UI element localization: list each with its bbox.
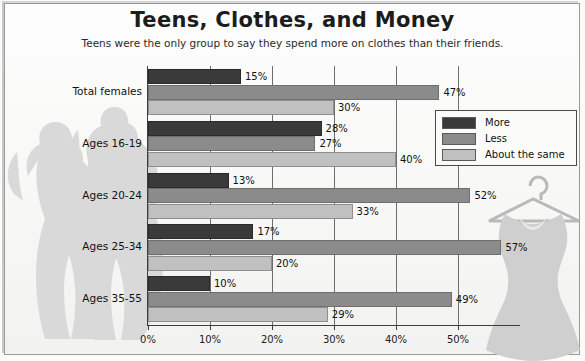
bar-value-label: 40% xyxy=(400,152,422,167)
bar-same xyxy=(148,152,396,167)
bar-same xyxy=(148,100,334,115)
legend-swatch xyxy=(442,133,476,145)
legend-label: More xyxy=(485,117,510,128)
bar-same xyxy=(148,307,328,322)
bar-value-label: 49% xyxy=(456,292,478,307)
bar-same xyxy=(148,256,272,271)
x-axis-tick-label: 20% xyxy=(261,334,283,345)
bar-less xyxy=(148,188,470,203)
category-label: Ages 16-19 xyxy=(2,137,142,149)
x-axis-tick-label: 0% xyxy=(140,334,156,345)
x-axis-tick xyxy=(396,325,397,330)
page-title: Teens, Clothes, and Money xyxy=(0,8,585,32)
bar-value-label: 10% xyxy=(214,276,236,291)
x-axis-tick-label: 40% xyxy=(385,334,407,345)
bar-value-label: 33% xyxy=(357,204,379,219)
bar-value-label: 20% xyxy=(276,256,298,271)
bar-value-label: 57% xyxy=(505,240,527,255)
bar-group: 17%57%20% xyxy=(148,221,520,273)
x-axis-tick xyxy=(148,325,149,330)
page-subtitle: Teens were the only group to say they sp… xyxy=(0,37,585,49)
bar-value-label: 30% xyxy=(338,100,360,115)
bar-group: 10%49%29% xyxy=(148,273,520,325)
chart-legend: MoreLessAbout the same xyxy=(435,110,577,166)
bar-value-label: 27% xyxy=(319,136,341,151)
x-axis-tick-label: 10% xyxy=(199,334,221,345)
bar-value-label: 15% xyxy=(245,69,267,84)
x-axis-tick xyxy=(334,325,335,330)
category-labels: Total femalesAges 16-19Ages 20-24Ages 25… xyxy=(0,66,142,325)
legend-swatch xyxy=(442,117,476,129)
x-axis-tick-label: 30% xyxy=(323,334,345,345)
category-label: Total females xyxy=(2,85,142,97)
category-label: Ages 25-34 xyxy=(2,240,142,252)
bar-value-label: 52% xyxy=(474,188,496,203)
bar-more xyxy=(148,69,241,84)
plot-area: 0%10%20%30%40%50%15%47%30%28%27%40%13%52… xyxy=(148,66,520,325)
x-axis-tick-label: 50% xyxy=(447,334,469,345)
x-axis-tick xyxy=(272,325,273,330)
x-axis-tick xyxy=(458,325,459,330)
bar-value-label: 17% xyxy=(257,224,279,239)
legend-swatch xyxy=(442,149,476,161)
bar-same xyxy=(148,204,353,219)
bar-less xyxy=(148,136,315,151)
bar-more xyxy=(148,276,210,291)
bar-more xyxy=(148,121,322,136)
bar-more xyxy=(148,224,253,239)
bar-value-label: 29% xyxy=(332,307,354,322)
bar-value-label: 28% xyxy=(326,121,348,136)
bar-less xyxy=(148,292,452,307)
legend-label: Less xyxy=(485,133,507,144)
category-label: Ages 20-24 xyxy=(2,189,142,201)
bar-less xyxy=(148,85,439,100)
bar-value-label: 47% xyxy=(443,85,465,100)
legend-item: More xyxy=(442,115,570,130)
legend-item: About the same xyxy=(442,147,570,162)
bar-more xyxy=(148,173,229,188)
x-axis-tick xyxy=(210,325,211,330)
legend-item: Less xyxy=(442,131,570,146)
bar-less xyxy=(148,240,501,255)
bar-value-label: 13% xyxy=(233,173,255,188)
chart-page: Teens, Clothes, and Money Teens were the… xyxy=(0,0,585,361)
bar-group: 13%52%33% xyxy=(148,170,520,222)
category-label: Ages 35-55 xyxy=(2,292,142,304)
legend-label: About the same xyxy=(485,149,565,160)
